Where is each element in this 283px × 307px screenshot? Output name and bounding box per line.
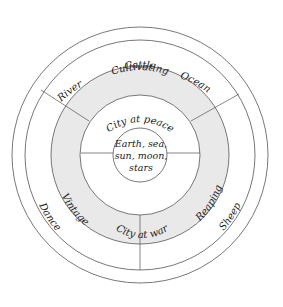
label-center-line2: sun, moon, [115,150,168,161]
label-center-line3: stars [129,162,153,173]
shield-diagram: River Ocean Cattle Cultivating City at p… [0,0,283,307]
label-center-line1: Earth, sea, [114,138,167,149]
